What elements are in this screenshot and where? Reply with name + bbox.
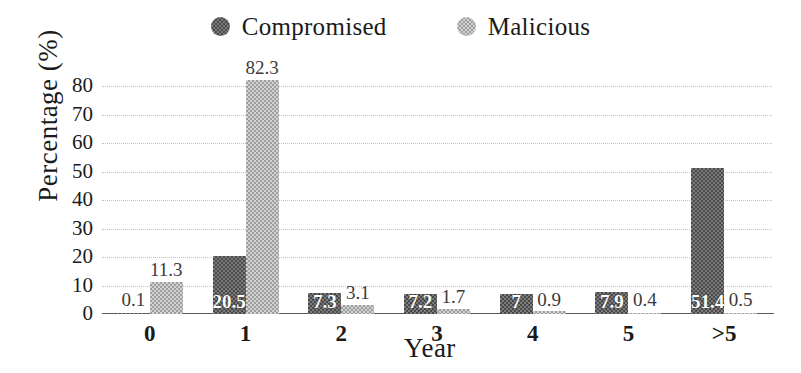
bar-chart-figure: Compromised Malicious Percentage (%) 010… xyxy=(0,0,801,373)
bar-compromised-4[interactable]: 7 xyxy=(500,294,533,314)
bar-value-label: 7.9 xyxy=(600,291,624,313)
bar-group-bars: 0.111.3 xyxy=(102,72,198,314)
bar-value-label: 3.1 xyxy=(346,282,370,304)
y-axis-tick-label: 80 xyxy=(72,73,93,98)
y-axis-tick-label: 0 xyxy=(83,301,94,326)
bar-value-label: 0.1 xyxy=(121,289,145,311)
bar-group-bars: 7.21.7 xyxy=(389,72,485,314)
bar-compromised-5[interactable]: 7.9 xyxy=(595,292,628,314)
bar-group-bars: 7.33.1 xyxy=(293,72,389,314)
bar-group: 7.21.73 xyxy=(389,72,485,314)
x-axis-title: Year xyxy=(80,333,780,364)
bar-compromised-0[interactable]: 0.1 xyxy=(117,313,150,314)
bar-value-label: 51.4 xyxy=(691,291,724,313)
bar-compromised-3[interactable]: 7.2 xyxy=(404,294,437,314)
bar-group: 7.90.45 xyxy=(581,72,677,314)
legend-marker-circle-icon xyxy=(211,17,230,36)
bar-value-label: 0.4 xyxy=(633,289,657,311)
bar-malicious-5[interactable]: 0.4 xyxy=(628,313,661,314)
legend-label-compromised: Compromised xyxy=(242,14,387,39)
bar-compromised-2[interactable]: 7.3 xyxy=(308,293,341,314)
chart-legend: Compromised Malicious xyxy=(0,14,801,39)
y-axis-tick-label: 70 xyxy=(72,102,93,127)
bar-group-bars: 20.582.3 xyxy=(198,72,294,314)
legend-item-compromised: Compromised xyxy=(211,14,387,39)
legend-marker-circle-icon xyxy=(457,17,476,36)
y-axis-tick-label: 60 xyxy=(72,130,93,155)
plot-area: 010203040506070800.111.3020.582.317.33.1… xyxy=(102,72,772,314)
bar-value-label: 0.5 xyxy=(729,289,753,311)
bar-group-bars: 70.9 xyxy=(485,72,581,314)
bar-value-label: 7.2 xyxy=(409,291,433,313)
bar-compromised-1[interactable]: 20.5 xyxy=(213,256,246,314)
bar-group: 7.33.12 xyxy=(293,72,389,314)
bar-malicious-1[interactable]: 82.3 xyxy=(246,80,279,314)
bar-malicious-0[interactable]: 11.3 xyxy=(150,282,183,314)
bar-group: 20.582.31 xyxy=(198,72,294,314)
bar-group: 70.94 xyxy=(485,72,581,314)
bar-group-bars: 7.90.4 xyxy=(581,72,677,314)
bar-malicious-3[interactable]: 1.7 xyxy=(437,309,470,314)
bar-group: 51.40.5>5 xyxy=(676,72,772,314)
y-axis-tick-label: 40 xyxy=(72,187,93,212)
y-axis-tick-label: 30 xyxy=(72,216,93,241)
bar-value-label: 7.3 xyxy=(313,291,337,313)
bar-value-label: 1.7 xyxy=(442,286,466,308)
bar-value-label: 0.9 xyxy=(537,289,561,311)
y-axis-title: Percentage (%) xyxy=(33,0,64,246)
legend-item-malicious: Malicious xyxy=(457,14,591,39)
bar-group-bars: 51.40.5 xyxy=(676,72,772,314)
bar-malicious-4[interactable]: 0.9 xyxy=(533,311,566,314)
y-axis-tick-label: 50 xyxy=(72,159,93,184)
bar-value-label: 82.3 xyxy=(245,57,278,79)
y-axis-tick-label: 20 xyxy=(72,244,93,269)
legend-label-malicious: Malicious xyxy=(488,14,591,39)
bar-group: 0.111.30 xyxy=(102,72,198,314)
bar-malicious-2[interactable]: 3.1 xyxy=(341,305,374,314)
bar-value-label: 20.5 xyxy=(212,291,245,313)
bar-value-label: 7 xyxy=(511,291,521,313)
y-axis-tick-label: 10 xyxy=(72,273,93,298)
bar-malicious->5[interactable]: 0.5 xyxy=(724,313,757,314)
bar-compromised->5[interactable]: 51.4 xyxy=(691,168,724,314)
bar-value-label: 11.3 xyxy=(150,259,183,281)
